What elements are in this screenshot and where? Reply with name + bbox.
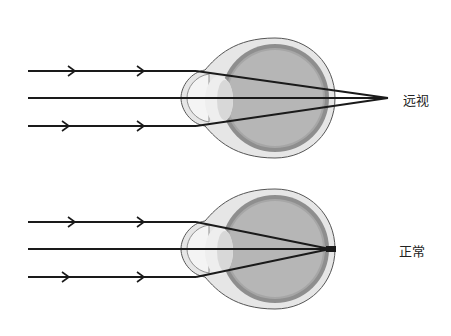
eye-diagram: 远视 正常	[0, 0, 451, 336]
diagram-svg	[0, 0, 451, 336]
label-normal: 正常	[399, 241, 425, 260]
label-hyperopia: 远视	[403, 90, 429, 109]
focal-point-marker	[326, 246, 336, 252]
